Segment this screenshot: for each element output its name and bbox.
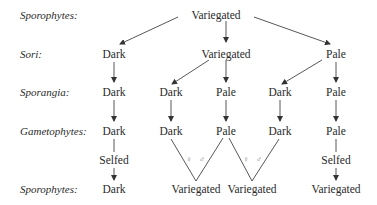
node-offspring-variegated-3: Variegated (310, 183, 361, 195)
node-sori-pale: Pale (325, 48, 347, 60)
node-gametophyte-dark-3: Dark (268, 125, 293, 137)
male-symbol-icon: ♂ (199, 155, 205, 164)
row-label-gametophytes: Gametophytes: (20, 125, 87, 137)
node-sporangia-dark-1: Dark (102, 86, 127, 98)
node-gametophyte-dark-2: Dark (159, 125, 184, 137)
node-sporangia-pale-2: Pale (325, 86, 347, 98)
node-gametophyte-pale-1: Pale (215, 125, 237, 137)
row-label-sporangia: Sporangia: (20, 86, 70, 98)
node-offspring-variegated-2: Variegated (226, 183, 277, 195)
node-offspring-variegated-1: Variegated (170, 183, 221, 195)
node-sporangia-dark-3: Dark (268, 86, 293, 98)
node-sori-variegated: Variegated (200, 48, 251, 60)
node-selfed-left: Selfed (98, 154, 129, 166)
row-label-sporophytes-offspring: Sporophytes: (20, 183, 78, 195)
male-symbol-icon: ♂ (256, 155, 262, 164)
node-parent-variegated: Variegated (190, 9, 241, 21)
node-offspring-dark: Dark (102, 183, 127, 195)
female-symbol-icon: ♀ (186, 155, 192, 164)
diagram-arrows (0, 0, 377, 205)
row-label-sori: Sori: (20, 48, 42, 60)
node-sporangia-dark-2: Dark (159, 86, 184, 98)
node-gametophyte-dark-1: Dark (102, 125, 127, 137)
node-sporangia-pale-1: Pale (215, 86, 237, 98)
female-symbol-icon: ♀ (243, 155, 249, 164)
node-selfed-right: Selfed (320, 154, 351, 166)
row-label-sporophytes-parent: Sporophytes: (20, 9, 78, 21)
node-gametophyte-pale-2: Pale (325, 125, 347, 137)
node-sori-dark: Dark (102, 48, 127, 60)
